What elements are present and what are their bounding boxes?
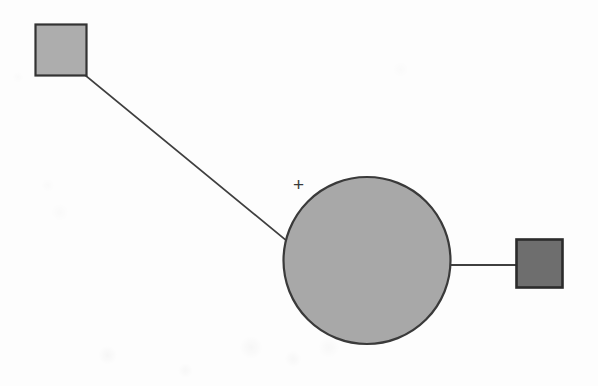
diagram-canvas: +	[0, 0, 598, 386]
node-male-affected-right[interactable]	[517, 240, 563, 288]
plus-icon: +	[293, 175, 304, 194]
node-female-proband[interactable]	[284, 177, 451, 344]
node-male-affected-upper-left[interactable]	[36, 25, 87, 76]
